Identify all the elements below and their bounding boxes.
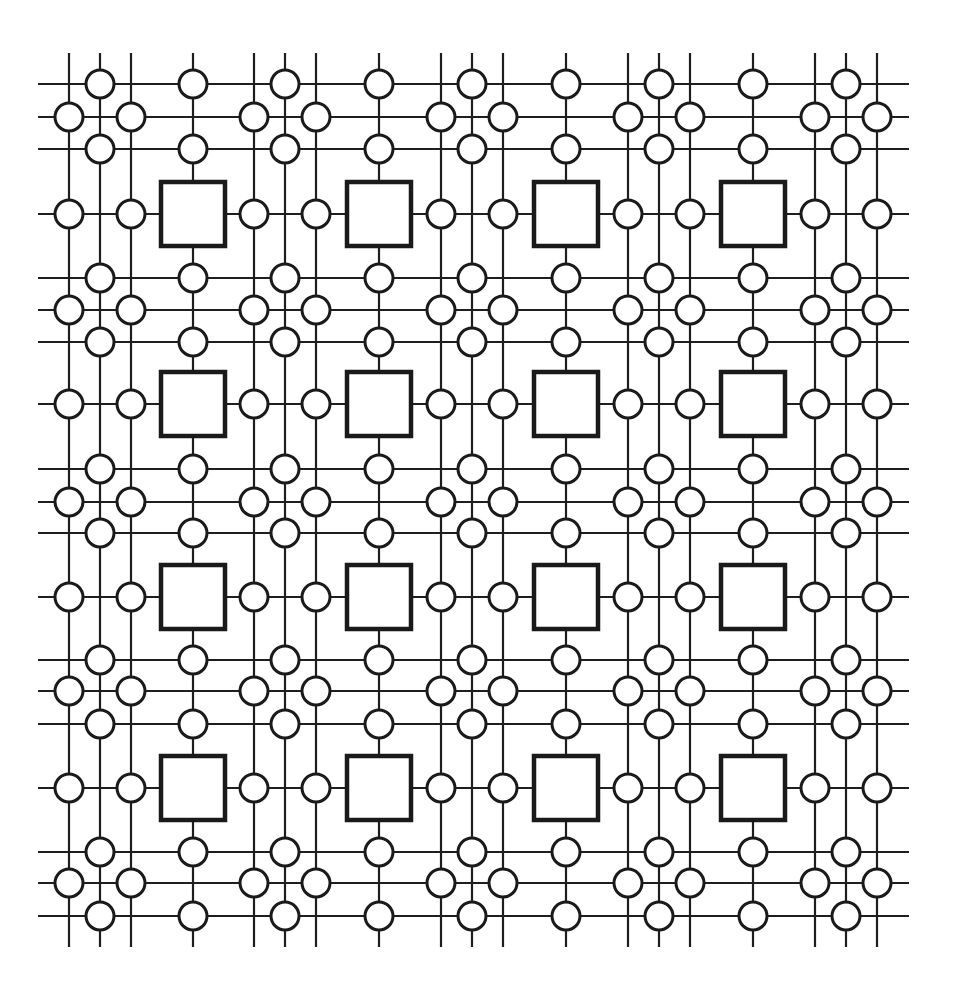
switch-node: [86, 70, 114, 98]
switch-node: [427, 390, 455, 418]
switch-node: [832, 70, 860, 98]
logic-block: [534, 565, 598, 629]
switch-node: [645, 902, 673, 930]
switch-node: [552, 838, 580, 866]
switch-node: [645, 710, 673, 738]
switch-node: [614, 583, 642, 611]
switch-node: [552, 70, 580, 98]
switch-node: [676, 390, 704, 418]
switch-node: [55, 488, 83, 516]
switch-node: [739, 646, 767, 674]
switch-node: [55, 774, 83, 802]
logic-block: [534, 182, 598, 246]
switch-node: [614, 774, 642, 802]
switch-node: [55, 583, 83, 611]
logic-block: [161, 565, 225, 629]
switch-node: [271, 70, 299, 98]
switch-node: [739, 710, 767, 738]
switch-node: [676, 488, 704, 516]
switch-node: [863, 296, 891, 324]
switch-node: [676, 774, 704, 802]
logic-block: [721, 756, 785, 820]
switch-node: [55, 677, 83, 705]
switch-node: [179, 135, 207, 163]
switch-node: [552, 264, 580, 292]
switch-node: [832, 710, 860, 738]
logic-block: [161, 756, 225, 820]
switch-node: [614, 296, 642, 324]
switch-node: [458, 455, 486, 483]
switch-node: [458, 646, 486, 674]
switch-node: [458, 135, 486, 163]
switch-node: [832, 838, 860, 866]
switch-node: [614, 677, 642, 705]
switch-node: [86, 264, 114, 292]
switch-node: [863, 583, 891, 611]
switch-node: [271, 264, 299, 292]
switch-node: [489, 390, 517, 418]
switch-node: [645, 135, 673, 163]
switch-node: [365, 70, 393, 98]
switch-node: [271, 135, 299, 163]
switch-node: [676, 103, 704, 131]
switch-node: [489, 200, 517, 228]
logic-block: [721, 565, 785, 629]
switch-node: [179, 902, 207, 930]
switch-node: [427, 103, 455, 131]
switch-node: [179, 328, 207, 356]
switch-node: [240, 774, 268, 802]
switch-node: [179, 455, 207, 483]
switch-node: [86, 902, 114, 930]
switch-node: [863, 200, 891, 228]
switch-node: [427, 488, 455, 516]
switch-node: [271, 646, 299, 674]
switch-node: [302, 774, 330, 802]
switch-node: [55, 390, 83, 418]
switch-node: [117, 774, 145, 802]
switch-node: [365, 902, 393, 930]
switch-node: [458, 328, 486, 356]
switch-node: [302, 488, 330, 516]
switch-node: [271, 838, 299, 866]
switch-node: [489, 869, 517, 897]
switch-node: [801, 488, 829, 516]
switch-node: [117, 677, 145, 705]
switch-node: [458, 710, 486, 738]
switch-node: [302, 677, 330, 705]
switch-node: [552, 710, 580, 738]
switch-node: [863, 103, 891, 131]
switch-node: [179, 519, 207, 547]
switch-node: [117, 103, 145, 131]
switch-node: [645, 519, 673, 547]
switch-node: [863, 677, 891, 705]
switch-node: [240, 200, 268, 228]
switch-node: [614, 869, 642, 897]
switch-node: [801, 296, 829, 324]
switch-node: [365, 710, 393, 738]
switch-node: [179, 70, 207, 98]
switch-node: [117, 869, 145, 897]
logic-block: [534, 372, 598, 436]
switch-node: [863, 390, 891, 418]
switch-node: [86, 135, 114, 163]
switch-node: [427, 677, 455, 705]
switch-node: [240, 103, 268, 131]
switch-node: [302, 103, 330, 131]
switch-node: [117, 390, 145, 418]
switch-node: [458, 519, 486, 547]
logic-block: [721, 182, 785, 246]
interconnect-grid-diagram: [0, 0, 955, 984]
switch-node: [552, 135, 580, 163]
switch-node: [801, 677, 829, 705]
switch-node: [801, 869, 829, 897]
switch-node: [739, 70, 767, 98]
switch-node: [645, 70, 673, 98]
switch-node: [240, 296, 268, 324]
switch-node: [55, 200, 83, 228]
switch-node: [117, 488, 145, 516]
switch-node: [645, 328, 673, 356]
switch-node: [801, 774, 829, 802]
logic-block: [161, 182, 225, 246]
switch-node: [676, 677, 704, 705]
switch-node: [302, 200, 330, 228]
